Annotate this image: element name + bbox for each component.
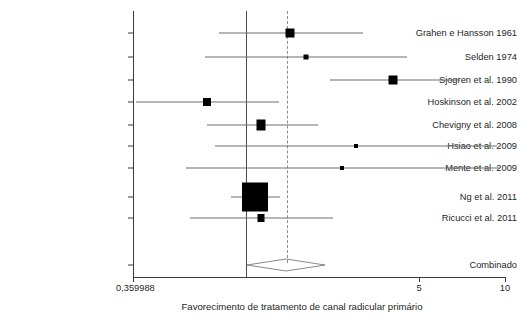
x-tick <box>505 277 506 282</box>
study-label: Chevigny et al. 2008 <box>395 120 517 130</box>
study-label: Ricucci et al. 2011 <box>395 213 517 223</box>
study-label: Grahen e Hansson 1961 <box>395 28 517 38</box>
x-tick <box>419 277 420 282</box>
forest-plot: Grahen e Hansson 1961 Selden 1974 Sjogre… <box>0 0 517 319</box>
x-tick-label: 0,359988 <box>116 283 155 293</box>
pooled-effect-line <box>287 11 288 263</box>
x-tick-label: 5 <box>416 283 421 293</box>
study-label: Selden 1974 <box>395 52 517 62</box>
effect-marker <box>354 144 358 148</box>
effect-marker <box>242 183 268 212</box>
y-axis <box>133 11 134 277</box>
study-label: Hoskinson et al. 2002 <box>395 97 517 107</box>
summary-label: Combinado <box>395 260 517 270</box>
effect-marker <box>340 166 344 170</box>
x-tick <box>133 277 134 282</box>
effect-marker <box>257 120 266 131</box>
null-effect-line <box>246 11 247 277</box>
effect-marker <box>286 29 295 38</box>
study-label: Ng et al. 2011 <box>395 192 517 202</box>
effect-marker <box>389 76 398 85</box>
x-axis <box>133 277 505 278</box>
x-axis-title: Favorecimento de tratamento de canal rad… <box>181 301 422 312</box>
effect-marker <box>304 55 309 60</box>
x-tick-label: 10 <box>500 283 510 293</box>
effect-marker <box>203 98 211 106</box>
effect-marker <box>258 214 265 222</box>
summary-diamond <box>243 256 329 274</box>
